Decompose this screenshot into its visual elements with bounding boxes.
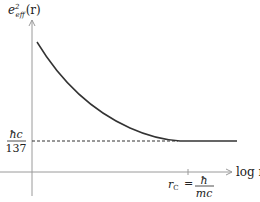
effective-charge-curve: [37, 42, 237, 141]
running-coupling-diagram: e2eff(r) ħc 137 log r rC = ħ mc: [0, 0, 260, 202]
rc-label: rC = ħ mc: [168, 174, 214, 200]
svg-text:137: 137: [6, 142, 27, 155]
svg-text:=: =: [184, 177, 193, 190]
svg-text:ħ: ħ: [200, 174, 207, 187]
svg-text:mc: mc: [196, 187, 213, 200]
svg-text:ħc: ħc: [9, 128, 22, 141]
asymptote-label: ħc 137: [6, 128, 27, 155]
y-axis-label: e2eff(r): [8, 3, 41, 19]
x-axis-label: log r: [236, 165, 260, 179]
svg-text:rC: rC: [168, 178, 179, 192]
